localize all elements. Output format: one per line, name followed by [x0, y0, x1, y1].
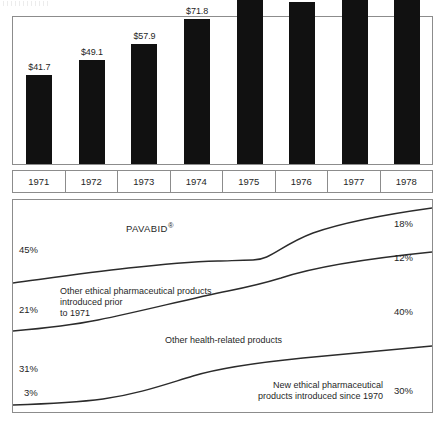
right-pct-new: 30%: [394, 385, 413, 396]
year-cell-1975[interactable]: 1975: [223, 171, 276, 192]
band-label-new-line2: products introduced since 1970: [197, 391, 383, 402]
bar-column: $41.7: [13, 17, 66, 164]
area-chart-panel: PAVABID® 45% 21% 31% 3% 18% 12% 40% 30% …: [12, 199, 433, 413]
bar-rect[interactable]: [184, 19, 210, 164]
bar-rect[interactable]: [237, 0, 263, 164]
band-divider-pavabid: [13, 208, 432, 283]
bar-column: $100.1: [329, 17, 382, 164]
right-pct-pavabid: 18%: [394, 218, 413, 229]
year-cell-1977[interactable]: 1977: [328, 171, 381, 192]
bar-value-label: $71.8: [186, 6, 208, 16]
band-label-prior-line2: introduced prior: [60, 297, 123, 308]
bar-column: $57.9: [118, 17, 171, 164]
brand-name: PAVABID: [126, 223, 168, 234]
band-label-prior-line3: to 1971: [60, 308, 90, 319]
bar-column: $84.1: [223, 17, 276, 164]
year-cell-1978[interactable]: 1978: [381, 171, 433, 192]
band-label-prior-line1: Other ethical pharmaceutical products: [60, 286, 212, 297]
left-pct-health: 31%: [19, 363, 38, 374]
bar-chart-panel: $41.7 $49.1 $57.9 $71.8 $84.1 $80.8: [12, 16, 433, 165]
bar-rect[interactable]: [131, 44, 157, 164]
bar-chart-plot-area: $41.7 $49.1 $57.9 $71.8 $84.1 $80.8: [13, 17, 432, 164]
band-label-health: Other health-related products: [165, 335, 282, 346]
year-cell-1971[interactable]: 1971: [13, 171, 66, 192]
scan-artifact: [3, 1, 49, 6]
band-label-new-line1: New ethical pharmaceutical: [197, 380, 383, 391]
bar-column: $117.4: [381, 17, 434, 164]
year-cell-1974[interactable]: 1974: [171, 171, 224, 192]
bar-rect[interactable]: [394, 0, 420, 164]
right-pct-prior: 12%: [394, 252, 413, 263]
year-cell-1976[interactable]: 1976: [276, 171, 329, 192]
bar-value-label: $57.9: [133, 31, 155, 41]
bar-column: $49.1: [66, 17, 119, 164]
brand-label: PAVABID®: [126, 220, 173, 234]
right-pct-health: 40%: [394, 306, 413, 317]
registered-trademark-icon: ®: [168, 221, 174, 230]
bar-rect[interactable]: [342, 0, 368, 164]
bar-column: $80.8: [276, 17, 329, 164]
left-pct-prior: 21%: [19, 304, 38, 315]
bar-rect[interactable]: [26, 75, 52, 164]
bar-value-label: $49.1: [81, 47, 103, 57]
year-cell-1972[interactable]: 1972: [66, 171, 119, 192]
bar-rect[interactable]: [79, 60, 105, 164]
left-pct-new: 3%: [24, 387, 38, 398]
bar-column: $71.8: [171, 17, 224, 164]
bar-rect[interactable]: [289, 2, 315, 164]
left-pct-pavabid: 45%: [19, 244, 38, 255]
figure-page: $41.7 $49.1 $57.9 $71.8 $84.1 $80.8: [0, 0, 443, 431]
year-cell-1973[interactable]: 1973: [118, 171, 171, 192]
year-axis-row: 1971 1972 1973 1974 1975 1976 1977 1978: [12, 170, 433, 193]
bar-value-label: $41.7: [28, 62, 50, 72]
